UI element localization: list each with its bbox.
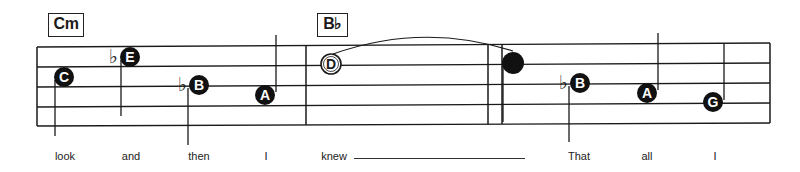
- staff: C♭E♭BAD♭BAG: [0, 0, 800, 172]
- note-letter: A: [260, 87, 270, 103]
- note-letter: B: [194, 77, 204, 93]
- chord-symbol: Cm: [48, 13, 84, 37]
- staff-line: [37, 63, 770, 67]
- note-letter: A: [642, 85, 652, 101]
- note-letter: C: [59, 69, 69, 85]
- flat-icon: ♭: [178, 73, 187, 95]
- staff-line: [37, 43, 770, 47]
- lyric-word: all: [641, 150, 652, 162]
- flat-icon: ♭: [109, 45, 118, 67]
- staff-line: [37, 83, 770, 87]
- tie-arc: [333, 37, 513, 54]
- chord-symbol: B♭: [317, 13, 348, 37]
- note-letter: E: [125, 49, 134, 65]
- melisma-extender-line: [354, 158, 525, 159]
- lyric-word: knew: [321, 150, 347, 162]
- note-letter: B: [575, 75, 585, 91]
- lyric-word: look: [55, 150, 75, 162]
- lyric-word: and: [122, 150, 140, 162]
- lyric-word: I: [713, 150, 716, 162]
- note-letter: D: [326, 56, 336, 72]
- staff-line: [37, 123, 770, 126]
- note-head-filled: [502, 52, 524, 74]
- lyric-word: I: [264, 150, 267, 162]
- staff-line: [37, 103, 770, 107]
- note-letter: G: [708, 94, 719, 110]
- flat-icon: ♭: [559, 71, 568, 93]
- music-score: C♭E♭BAD♭BAG CmB♭ lookandthenIknewThatall…: [0, 0, 800, 172]
- lyric-word: then: [188, 150, 209, 162]
- lyric-word: That: [568, 150, 590, 162]
